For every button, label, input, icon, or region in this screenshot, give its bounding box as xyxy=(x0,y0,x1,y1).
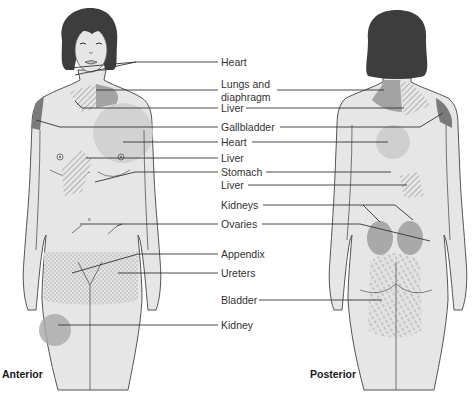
label-stomach: Stomach xyxy=(221,166,262,178)
label-ovaries: Ovaries xyxy=(221,218,257,230)
label-liver-shoulder: Liver xyxy=(221,102,244,114)
label-heart-jaw: Heart xyxy=(221,56,247,68)
view-label-posterior: Posterior xyxy=(310,368,356,380)
anterior-figure: ɛ xyxy=(23,8,161,390)
label-liver-back: Liver xyxy=(221,179,244,191)
label-lungs: Lungs and xyxy=(221,78,270,90)
label-bladder: Bladder xyxy=(221,294,257,306)
label-ureters: Ureters xyxy=(221,267,255,279)
label-appendix: Appendix xyxy=(221,248,265,260)
label-gallbladder: Gallbladder xyxy=(221,121,275,133)
label-heart-chest: Heart xyxy=(221,136,247,148)
label-liver-chest: Liver xyxy=(221,152,244,164)
svg-text:ɛ: ɛ xyxy=(88,216,91,222)
posterior-figure xyxy=(329,10,467,390)
label-kidney: Kidney xyxy=(221,319,253,331)
view-label-anterior: Anterior xyxy=(2,368,43,380)
label-kidneys: Kidneys xyxy=(221,199,258,211)
